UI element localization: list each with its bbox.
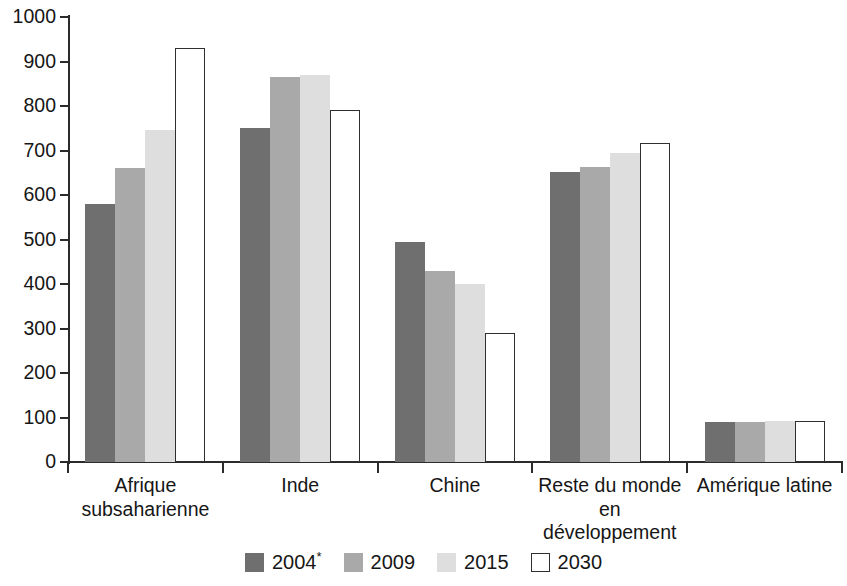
legend-item[interactable]: 2004* <box>245 552 322 572</box>
legend-item[interactable]: 2009 <box>344 552 416 572</box>
bar-group <box>85 17 205 462</box>
y-axis-tick-label: 1000 <box>2 7 56 27</box>
bar <box>455 284 485 462</box>
legend-label: 2030 <box>558 552 603 572</box>
chart-legend: 2004*200920152030 <box>0 552 847 572</box>
bar <box>395 242 425 462</box>
x-axis-tick <box>686 463 688 473</box>
bar-chart: 01002003004005006007008009001000 Afrique… <box>0 0 847 586</box>
y-axis-tick-label: 900 <box>2 52 56 72</box>
legend-label: 2015 <box>464 552 509 572</box>
bar <box>330 110 360 462</box>
y-axis-tick-label: 600 <box>2 185 56 205</box>
bar <box>270 77 300 462</box>
x-axis-category-label: Chine <box>378 474 533 498</box>
bar <box>580 167 610 462</box>
bar-group <box>550 17 670 462</box>
legend-item[interactable]: 2015 <box>437 552 509 572</box>
bar-group <box>395 17 515 462</box>
x-axis-category-label: Afrique subsaharienne <box>68 474 223 521</box>
legend-label: 2009 <box>371 552 416 572</box>
x-axis-tick <box>531 463 533 473</box>
bar <box>735 422 765 462</box>
x-axis-tick <box>377 463 379 473</box>
legend-swatch-icon <box>437 553 456 572</box>
x-axis-tick <box>841 463 843 473</box>
x-axis-category-label: Inde <box>223 474 378 498</box>
legend-swatch-icon <box>531 553 550 572</box>
x-axis-category-label: Amérique latine <box>687 474 842 498</box>
y-axis-tick-label: 0 <box>2 452 56 472</box>
bar <box>795 421 825 462</box>
y-axis-tick-label: 200 <box>2 363 56 383</box>
legend-swatch-icon <box>344 553 363 572</box>
legend-footnote-marker: * <box>316 549 321 564</box>
bar <box>425 271 455 462</box>
bar <box>115 168 145 462</box>
y-axis-tick-label: 400 <box>2 274 56 294</box>
y-axis-tick-label: 500 <box>2 230 56 250</box>
x-axis-category-label: Reste du monde en développement <box>532 474 687 545</box>
y-axis-tick-label: 800 <box>2 96 56 116</box>
bar <box>640 143 670 462</box>
bar <box>485 333 515 462</box>
legend-item[interactable]: 2030 <box>531 552 603 572</box>
bar <box>240 128 270 462</box>
bar <box>610 153 640 462</box>
x-axis-tick <box>222 463 224 473</box>
y-axis-tick-label: 100 <box>2 408 56 428</box>
bar <box>765 421 795 462</box>
bar <box>550 172 580 462</box>
bar <box>300 75 330 462</box>
y-axis-tick-label: 300 <box>2 319 56 339</box>
bar-group <box>240 17 360 462</box>
plot-area <box>68 17 842 462</box>
bar <box>145 130 175 462</box>
bar-group <box>705 17 825 462</box>
bar <box>85 204 115 462</box>
x-axis-tick <box>67 463 69 473</box>
bar <box>705 422 735 462</box>
y-axis-tick-label: 700 <box>2 141 56 161</box>
bar <box>175 48 205 462</box>
legend-swatch-icon <box>245 553 264 572</box>
legend-label: 2004* <box>272 552 322 572</box>
